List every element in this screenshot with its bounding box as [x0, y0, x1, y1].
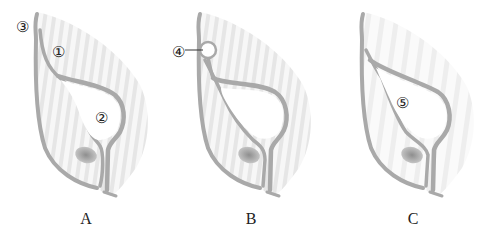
label-4: ④ [172, 45, 185, 60]
label-5: ⑤ [396, 96, 409, 111]
caption-a: A [80, 210, 92, 228]
label-1: ① [52, 45, 65, 60]
figure-c [361, 12, 474, 196]
figure-b [185, 12, 311, 196]
caption-c: C [408, 210, 419, 228]
label-2: ② [95, 111, 108, 126]
caption-b: B [246, 210, 257, 228]
figure-a [35, 12, 148, 196]
label-3: ③ [16, 20, 29, 35]
diagram-canvas [0, 0, 483, 235]
